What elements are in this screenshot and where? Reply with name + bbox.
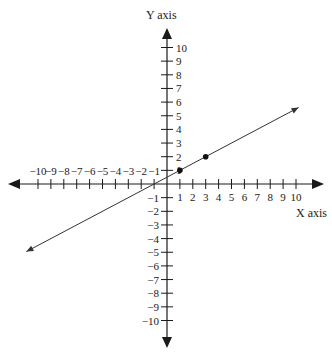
data-point [177, 168, 183, 174]
y-tick-label: 8 [176, 69, 182, 81]
x-tick-label: 7 [255, 191, 261, 203]
y-tick-label: 5 [176, 110, 182, 122]
y-tick-label: −10 [142, 315, 160, 327]
x-axis-title: X axis [296, 206, 327, 220]
x-tick-label: −8 [58, 165, 70, 177]
x-tick-label: −1 [148, 165, 160, 177]
x-tick-label: −4 [110, 165, 122, 177]
y-tick-label: 4 [176, 123, 182, 135]
x-tick-label: 2 [190, 191, 196, 203]
x-tick-label: −2 [135, 165, 147, 177]
x-tick-label: −3 [122, 165, 134, 177]
y-axis-title: Y axis [146, 8, 177, 22]
data-point [203, 154, 209, 160]
y-tick-label: −4 [147, 233, 159, 245]
y-tick-label: 3 [176, 137, 182, 149]
coordinate-plane-chart: −10−9−8−7−6−5−4−3−2−11234567891010987654… [0, 0, 332, 359]
x-tick-label: 5 [229, 191, 235, 203]
y-tick-label: −1 [147, 192, 159, 204]
y-tick-label: −5 [147, 246, 159, 258]
y-tick-label: −8 [147, 287, 159, 299]
x-tick-label: −5 [97, 165, 109, 177]
x-tick-label: 1 [177, 191, 183, 203]
y-tick-label: −6 [147, 260, 159, 272]
x-tick-label: −9 [45, 165, 57, 177]
y-tick-label: −3 [147, 219, 159, 231]
y-tick-label: 6 [176, 96, 182, 108]
y-tick-label: 10 [176, 42, 188, 54]
x-tick-label: 10 [291, 191, 303, 203]
x-tick-label: −7 [71, 165, 83, 177]
x-tick-label: 3 [203, 191, 209, 203]
y-tick-label: 7 [176, 82, 182, 94]
y-axis-down-arrow-icon [162, 337, 172, 348]
x-tick-label: 9 [280, 191, 286, 203]
x-axis-left-arrow-icon [8, 179, 20, 189]
axes [8, 28, 324, 348]
y-tick-label: −2 [147, 205, 159, 217]
x-tick-label: 4 [216, 191, 222, 203]
x-tick-label: 6 [242, 191, 248, 203]
x-tick-label: −6 [84, 165, 96, 177]
x-tick-label: 8 [267, 191, 273, 203]
y-axis-up-arrow-icon [162, 28, 172, 39]
y-tick-label: −7 [147, 274, 159, 286]
y-tick-label: 2 [176, 151, 182, 163]
x-axis-right-arrow-icon [312, 179, 324, 189]
y-tick-label: −9 [147, 301, 159, 313]
y-tick-label: 9 [176, 55, 182, 67]
